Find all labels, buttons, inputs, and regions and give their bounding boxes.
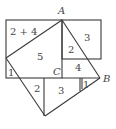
pythagorean-diagram: A B C 2 + 4 3 5 2 4 1 2 3 1 xyxy=(0,0,116,129)
region-label: 2 xyxy=(68,44,74,55)
region-label: 1 xyxy=(83,79,89,90)
region-label: 5 xyxy=(37,51,43,62)
region-label: 2 + 4 xyxy=(10,26,37,37)
region-label: 4 xyxy=(75,62,81,73)
point-a-label: A xyxy=(57,5,65,16)
point-b-label: B xyxy=(102,73,110,84)
square-edge-3 xyxy=(45,78,100,116)
region-label: 1 xyxy=(8,67,14,78)
region-label: 3 xyxy=(84,32,90,43)
point-c-label: C xyxy=(53,66,61,77)
region-label: 2 xyxy=(34,83,40,94)
region-label: 3 xyxy=(58,85,64,96)
